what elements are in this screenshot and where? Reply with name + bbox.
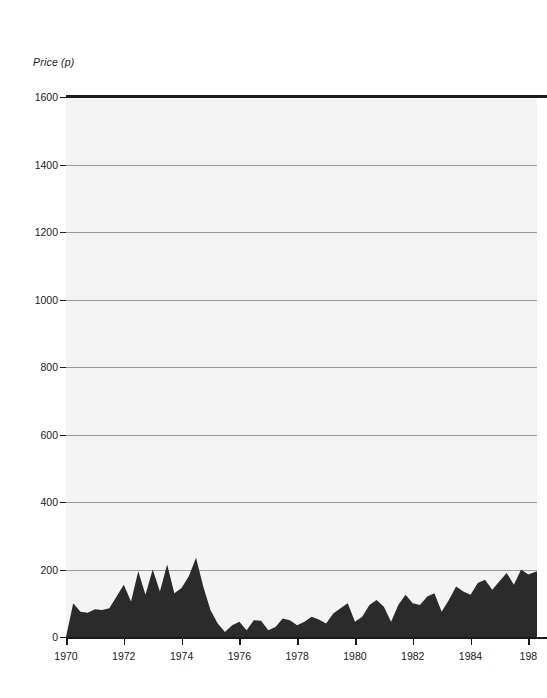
y-tick-label: 200 [6, 564, 58, 576]
x-tick-mark [297, 639, 299, 645]
plot-area [66, 97, 537, 637]
y-tick-label: 800 [6, 361, 58, 373]
y-tick-label: 1000 [6, 294, 58, 306]
x-tick-mark [182, 639, 184, 645]
y-tick-label: 1400 [6, 159, 58, 171]
area-series [66, 97, 537, 637]
area-series-path [66, 558, 537, 637]
x-tick-mark [239, 639, 241, 645]
x-tick-label: 1980 [343, 650, 366, 662]
x-tick-label: 1982 [401, 650, 424, 662]
x-tick-label: 1976 [228, 650, 251, 662]
y-tick-label: 600 [6, 429, 58, 441]
x-tick-label: 1984 [459, 650, 482, 662]
x-tick-mark [355, 639, 357, 645]
y-tick-mark [60, 165, 66, 166]
y-tick-mark [60, 502, 66, 503]
y-tick-label: 1200 [6, 226, 58, 238]
y-tick-mark [60, 570, 66, 571]
y-tick-mark [60, 97, 66, 98]
y-tick-mark [60, 300, 66, 301]
x-tick-label: 1974 [170, 650, 193, 662]
chart-figure: Price (p) 02004006008001000120014001600 … [0, 0, 547, 698]
x-tick-mark [471, 639, 473, 645]
x-tick-label: 1972 [112, 650, 135, 662]
plot-top-border [66, 95, 547, 98]
x-tick-label: 198 [520, 650, 538, 662]
y-tick-mark [60, 637, 66, 638]
x-tick-label: 1978 [285, 650, 308, 662]
y-axis-ticks: 02004006008001000120014001600 [0, 0, 58, 698]
x-tick-mark [124, 639, 126, 645]
y-tick-mark [60, 367, 66, 368]
x-axis-line [66, 637, 547, 639]
y-tick-mark [60, 232, 66, 233]
x-tick-label: 1970 [54, 650, 77, 662]
y-tick-label: 1600 [6, 91, 58, 103]
x-tick-mark [66, 639, 68, 645]
y-tick-mark [60, 435, 66, 436]
y-tick-label: 400 [6, 496, 58, 508]
x-tick-mark [528, 639, 530, 645]
x-tick-mark [413, 639, 415, 645]
y-tick-label: 0 [6, 631, 58, 643]
